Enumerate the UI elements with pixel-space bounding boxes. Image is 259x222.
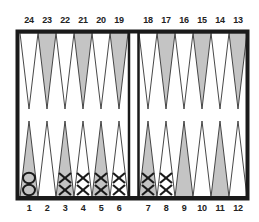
point-number-label: 24: [20, 15, 38, 25]
point-number-label: 18: [139, 15, 157, 25]
point-23[interactable]: [38, 33, 56, 109]
point-22[interactable]: [56, 33, 74, 109]
point-number-label: 20: [92, 15, 110, 25]
point-number-label: 12: [229, 203, 247, 213]
point-10[interactable]: [193, 121, 211, 197]
point-number-label: 6: [110, 203, 128, 213]
point-number-label: 9: [175, 203, 193, 213]
point-18[interactable]: [139, 33, 157, 109]
point-number-label: 16: [175, 15, 193, 25]
point-number-label: 14: [211, 15, 229, 25]
point-number-label: 15: [193, 15, 211, 25]
point-20[interactable]: [92, 33, 110, 109]
point-21[interactable]: [74, 33, 92, 109]
point-number-label: 5: [92, 203, 110, 213]
point-24[interactable]: [20, 33, 38, 109]
point-number-label: 11: [211, 203, 229, 213]
point-number-label: 2: [38, 203, 56, 213]
board-graphic: [0, 0, 259, 222]
point-12[interactable]: [229, 121, 247, 197]
point-14[interactable]: [211, 33, 229, 109]
point-17[interactable]: [157, 33, 175, 109]
point-number-label: 21: [74, 15, 92, 25]
point-16[interactable]: [175, 33, 193, 109]
point-19[interactable]: [110, 33, 128, 109]
point-number-label: 8: [157, 203, 175, 213]
point-number-label: 22: [56, 15, 74, 25]
point-15[interactable]: [193, 33, 211, 109]
point-13[interactable]: [229, 33, 247, 109]
point-number-label: 4: [74, 203, 92, 213]
point-9[interactable]: [175, 121, 193, 197]
point-number-label: 3: [56, 203, 74, 213]
point-number-label: 19: [110, 15, 128, 25]
point-number-label: 17: [157, 15, 175, 25]
point-11[interactable]: [211, 121, 229, 197]
point-number-label: 1: [20, 203, 38, 213]
point-number-label: 7: [139, 203, 157, 213]
point-number-label: 13: [229, 15, 247, 25]
point-2[interactable]: [38, 121, 56, 197]
point-number-label: 23: [38, 15, 56, 25]
point-number-label: 10: [193, 203, 211, 213]
